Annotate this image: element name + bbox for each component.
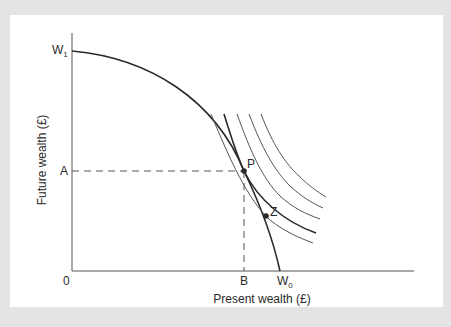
point-Z-marker [263, 213, 269, 219]
x-intercept-label: W0 [277, 275, 293, 290]
point-B-label: B [240, 275, 248, 287]
point-P-marker [241, 168, 247, 174]
y-axis-label: Future wealth (£) [35, 115, 49, 206]
point-P-label: P [247, 158, 255, 170]
origin-label: 0 [63, 275, 70, 287]
indifference-curve-1 [211, 114, 313, 243]
y-intercept-label: W1 [52, 44, 68, 59]
point-A-label: A [60, 165, 68, 177]
x-axis-label: Present wealth (£) [213, 292, 310, 306]
point-Z-label: Z [270, 206, 277, 218]
